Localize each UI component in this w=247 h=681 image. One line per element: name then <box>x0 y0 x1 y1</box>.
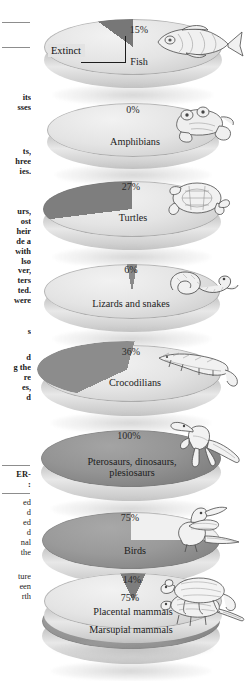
percent-label-crocodilians: 36% <box>113 346 149 357</box>
text-line: were <box>0 296 31 306</box>
group-label-birds: Birds <box>105 545 165 557</box>
text-block-7: ed d nal the <box>0 518 31 558</box>
fish-illustration <box>148 20 244 62</box>
text-line: ed <box>0 498 31 508</box>
percent-label-marsupials: 75% <box>111 592 149 603</box>
extinct-callout-label: Extinct <box>48 44 85 57</box>
text-line: d <box>0 508 31 518</box>
callout-leader-horizontal <box>81 62 126 63</box>
text-block-8: ture een rth <box>0 572 31 602</box>
text-line: nal <box>0 538 31 548</box>
text-block-3: urs, ost heir de a with lso ver, ters te… <box>0 207 31 306</box>
text-line: de a <box>0 237 31 247</box>
bird-illustration <box>157 502 245 556</box>
callout-leader-vertical <box>125 36 126 63</box>
text-block-5: d g the re es, d <box>0 353 31 403</box>
text-line: the <box>0 548 31 558</box>
text-line: its <box>0 93 31 103</box>
pie-unit-lizards-snakes[interactable]: 6% Lizards and snakes <box>31 258 247 342</box>
text-block-4: s <box>0 327 31 337</box>
text-line: ver, <box>0 266 31 276</box>
frog-illustration <box>159 102 237 146</box>
text-line: heir <box>0 227 31 237</box>
percent-label-turtles: 27% <box>113 181 149 192</box>
text-block-1: its sses <box>0 93 31 113</box>
text-line: s <box>0 327 31 337</box>
text-line: ER- <box>0 470 31 480</box>
text-line: ture <box>0 572 31 582</box>
text-line: g the <box>0 363 31 373</box>
text-line: with <box>0 247 31 257</box>
pie-chart-stack: 15% Fish Extinct <box>31 0 247 655</box>
percent-label-lizards-snakes: 6% <box>113 264 149 275</box>
rule-third <box>2 465 30 466</box>
dinosaur-illustration <box>159 418 243 470</box>
text-line: sses <box>0 103 31 113</box>
text-line: es, <box>0 383 31 393</box>
text-line: ost <box>0 217 31 227</box>
pie-unit-archosaurs[interactable]: 100% Pterosaurs, dinosaurs, plesiosaurs <box>31 424 247 512</box>
text-line: : <box>0 480 31 490</box>
pie-unit-fish[interactable]: 15% Fish Extinct <box>31 14 247 100</box>
turtle-illustration <box>159 179 235 223</box>
placental-mammal-illustration <box>155 570 243 618</box>
text-block-6b: ed d <box>0 498 31 518</box>
text-line: urs, <box>0 207 31 217</box>
crocodile-illustration <box>155 344 245 390</box>
text-block-2: ts, hree ies. <box>0 147 31 177</box>
rule-second <box>2 47 30 48</box>
text-line: een <box>0 582 31 592</box>
adjacent-text-column: its sses ts, hree ies. urs, ost heir de … <box>0 0 31 655</box>
text-line: ted. <box>0 286 31 296</box>
rule-fourth <box>2 493 30 494</box>
percent-label-archosaurs: 100% <box>109 430 149 441</box>
pie-unit-placentals[interactable]: 14% Placental mammals <box>31 568 247 654</box>
pie-unit-amphibians[interactable]: 0% Amphibians <box>31 98 247 180</box>
pie-unit-turtles[interactable]: 27% Turtles <box>31 176 247 260</box>
pie-unit-crocodilians[interactable]: 36% Crocodilians <box>31 340 247 426</box>
text-block-6: ER- : <box>0 470 31 490</box>
text-line: d <box>0 393 31 403</box>
text-line: ters <box>0 276 31 286</box>
text-line: ies. <box>0 167 31 177</box>
text-line: lso <box>0 257 31 267</box>
snake-illustration <box>161 264 241 308</box>
text-line: d <box>0 353 31 363</box>
text-line: hree <box>0 157 31 167</box>
text-line: d <box>0 528 31 538</box>
rule-top <box>2 22 30 23</box>
text-line: rth <box>0 592 31 602</box>
percent-label-placentals: 14% <box>113 574 151 585</box>
text-line: ts, <box>0 147 31 157</box>
text-line: re <box>0 373 31 383</box>
percent-label-amphibians: 0% <box>115 104 151 115</box>
text-line: ed <box>0 518 31 528</box>
percent-label-birds: 75% <box>111 512 149 523</box>
